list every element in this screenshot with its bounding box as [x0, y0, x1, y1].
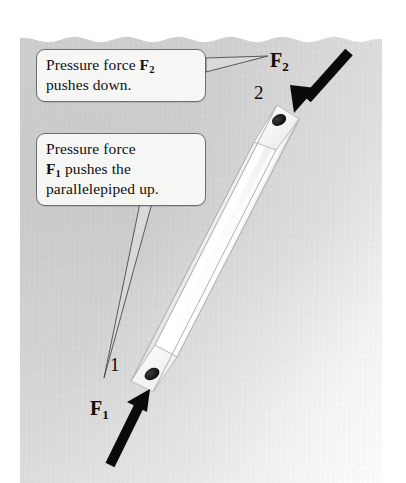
- callout-f2-symbol: F: [140, 56, 150, 73]
- callout-f1-line-1: Pressure force: [46, 139, 196, 159]
- callout-f2-subscript: 2: [149, 64, 154, 75]
- force-arrow-f2: [290, 52, 349, 113]
- force-label-f2-subscript: 2: [282, 59, 289, 74]
- force-label-f1: F1: [90, 398, 109, 418]
- figure-root: Pressure force F2 pushes down. Pressure …: [0, 0, 406, 483]
- callout-f2-line-1-text: Pressure force: [46, 56, 140, 73]
- force-label-f2-symbol: F: [270, 49, 282, 71]
- callout-pressure-force-f2: Pressure force F2 pushes down.: [36, 49, 206, 102]
- callout-f1-subscript: 1: [56, 168, 61, 179]
- callout-f1-line-2-text: pushes the: [61, 160, 131, 177]
- vertex-label-2: 2: [254, 83, 264, 102]
- callout-f1-line-3: parallelepiped up.: [46, 179, 196, 199]
- leader-line-f1: [104, 203, 152, 378]
- callout-f2-line-2: pushes down.: [46, 75, 196, 95]
- callout-f1-line-2: F1 pushes the: [46, 159, 196, 179]
- callout-f2-line-1: Pressure force F2: [46, 55, 196, 75]
- force-label-f2: F2: [270, 50, 289, 70]
- callout-pressure-force-f1: Pressure force F1 pushes the parallelepi…: [36, 133, 206, 206]
- vertex-label-1: 1: [110, 355, 120, 374]
- force-label-f1-subscript: 1: [102, 407, 109, 422]
- callout-f1-symbol: F: [46, 160, 56, 177]
- force-arrow-f1: [110, 389, 150, 465]
- leader-line-f2: [206, 56, 268, 72]
- force-label-f1-symbol: F: [90, 397, 102, 419]
